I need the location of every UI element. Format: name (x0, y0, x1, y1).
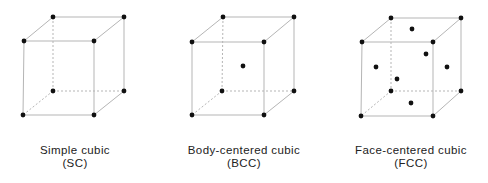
atom (22, 39, 27, 44)
atom (292, 89, 297, 94)
atom (190, 40, 195, 45)
structure-name: Simple cubic (40, 144, 110, 157)
atom (360, 40, 365, 45)
atom (409, 101, 414, 106)
atom (51, 15, 56, 20)
structure-name: Body-centered cubic (188, 144, 300, 157)
face-centered-cubic-label: Face-centered cubic (FCC) (355, 144, 467, 170)
hidden-edge (361, 91, 391, 116)
cube-edge (361, 42, 362, 116)
atom (389, 89, 394, 94)
atom (359, 114, 364, 119)
cube-edge (94, 91, 124, 115)
simple-cubic-label: Simple cubic (SC) (40, 144, 110, 170)
atom (389, 16, 394, 21)
hidden-edge (222, 17, 223, 91)
structure-abbr: (BCC) (188, 157, 300, 170)
body-centered-cubic-label: Body-centered cubic (BCC) (188, 144, 300, 170)
atom (395, 77, 400, 82)
atom (241, 64, 246, 69)
cube-edge (192, 17, 223, 42)
atom (92, 39, 97, 44)
body-centered-cubic-cell (190, 15, 297, 118)
structure-abbr: (SC) (40, 157, 110, 170)
cube-edge (433, 91, 461, 116)
face-centered-cubic-cell (359, 16, 464, 119)
atom (122, 89, 127, 94)
atom (262, 40, 267, 45)
cube-edge (362, 18, 391, 42)
cube-edge (23, 41, 24, 115)
atom (122, 15, 127, 20)
cube-edge (433, 18, 461, 42)
atom (221, 15, 226, 20)
structure-name: Face-centered cubic (355, 144, 467, 157)
atom (431, 114, 436, 119)
simple-cubic-cell (21, 15, 127, 118)
atom (445, 65, 450, 70)
atom (220, 89, 225, 94)
atom (51, 89, 56, 94)
cube-edge (94, 17, 124, 41)
atom (459, 89, 464, 94)
cube-edge (264, 91, 294, 115)
atom (459, 16, 464, 21)
hidden-edge (23, 91, 53, 115)
atom (410, 27, 415, 32)
atom (262, 113, 267, 118)
cube-edge (24, 17, 53, 41)
structure-abbr: (FCC) (355, 157, 467, 170)
atom (424, 52, 429, 57)
atom (431, 40, 436, 45)
hidden-edge (192, 91, 222, 115)
atom (292, 15, 297, 20)
atom (190, 113, 195, 118)
atom (92, 113, 97, 118)
cube-edge (264, 17, 294, 42)
atom (374, 65, 379, 70)
atom (21, 113, 26, 118)
